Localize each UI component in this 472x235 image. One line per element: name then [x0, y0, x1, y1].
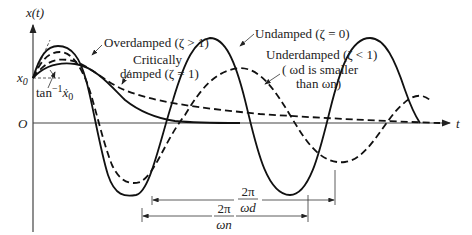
period-d-numerator: 2π — [241, 184, 255, 199]
period-d-denominator: ωd — [240, 200, 256, 215]
undamped-leader — [240, 34, 254, 46]
period-n-denominator: ωn — [216, 217, 232, 232]
underdamped-note-line1: ( ωd is smaller — [282, 62, 359, 77]
svg-text:x0: x0 — [16, 70, 28, 87]
overdamped-leader — [92, 45, 102, 55]
svg-text:tan−1ẋ0: tan−1ẋ0 — [36, 83, 73, 102]
x0-label: x0 — [16, 70, 28, 87]
slope-label: tan−1ẋ0 — [36, 83, 73, 102]
undamped-label: Undamped (ζ = 0) — [255, 26, 350, 41]
x-axis-label: t — [456, 116, 460, 131]
period-n-numerator: 2π — [217, 201, 231, 216]
y-axis-label: x(t) — [25, 5, 44, 20]
critically-label-line2: damped (ζ = 1) — [120, 66, 199, 81]
underdamped-leader — [265, 74, 280, 84]
critically-label-line1: Critically — [133, 52, 183, 67]
underdamped-label: Underdamped (ζ < 1) — [266, 47, 377, 62]
overdamped-label: Overdamped (ζ > 1) — [104, 35, 209, 50]
underdamped-note-line2: than ωn) — [296, 76, 341, 91]
origin-label: O — [18, 116, 28, 131]
damping-response-diagram: x(t) t O x0 tan−1ẋ0 Overdamped (ζ > 1) C… — [0, 0, 472, 235]
